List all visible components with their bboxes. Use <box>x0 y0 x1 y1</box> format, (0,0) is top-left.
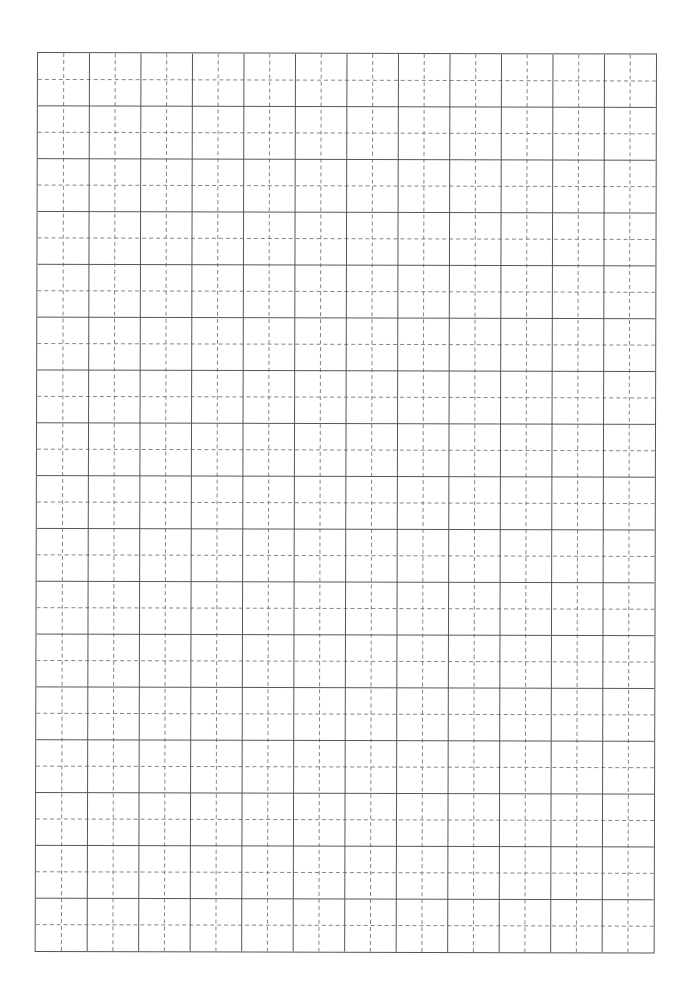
grid-sheet <box>35 52 657 954</box>
solid-vertical-line <box>139 53 141 951</box>
dashed-vertical-line <box>628 55 630 953</box>
dashed-vertical-line <box>216 53 218 951</box>
dashed-vertical-line <box>473 54 475 952</box>
grid-lines <box>36 53 656 953</box>
solid-vertical-line <box>551 54 553 952</box>
dashed-vertical-line <box>61 53 63 951</box>
